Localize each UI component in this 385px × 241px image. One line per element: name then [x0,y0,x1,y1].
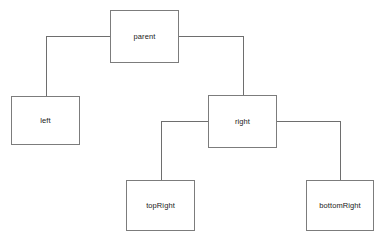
node-parent[interactable]: parent [110,10,179,63]
node-topright-label: topRight [146,202,175,210]
node-right[interactable]: right [208,95,277,148]
node-left-label: left [40,117,50,125]
edge-right-topright [161,121,208,180]
node-left[interactable]: left [11,96,80,145]
node-right-label: right [235,118,250,126]
edge-parent-left [46,36,110,96]
diagram-canvas: parent left right topRight bottomRight [0,0,385,241]
node-bottomright[interactable]: bottomRight [306,180,374,231]
edge-right-bottomright [277,121,340,180]
node-topright[interactable]: topRight [126,180,195,231]
node-bottomright-label: bottomRight [319,202,361,210]
edge-parent-right [179,36,243,95]
node-parent-label: parent [134,33,156,41]
